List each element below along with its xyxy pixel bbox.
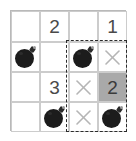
x-mark-icon (75, 79, 92, 96)
grid-cell-r4c2[interactable] (40, 102, 69, 132)
minesweeper-puzzle: 2 1 3 (0, 0, 136, 141)
grid-cell-r2c4[interactable] (98, 42, 127, 72)
grid-cell-r4c1[interactable] (11, 102, 40, 132)
cell-number: 2 (107, 78, 118, 97)
grid-cell-r1c1[interactable] (11, 11, 40, 42)
grid-cell-r3c2[interactable]: 3 (40, 72, 69, 102)
grid-cell-r4c3[interactable] (69, 102, 98, 132)
puzzle-grid: 2 1 3 (10, 10, 126, 131)
bomb-icon (73, 47, 94, 68)
x-mark-icon (75, 109, 92, 126)
grid-cell-r2c3[interactable] (69, 42, 98, 72)
cell-number: 2 (49, 17, 60, 36)
grid-cell-r3c4-selected[interactable]: 2 (98, 72, 127, 102)
grid-cell-r2c1[interactable] (11, 42, 40, 72)
grid-cell-r1c3[interactable] (69, 11, 98, 42)
bomb-icon (102, 107, 123, 128)
cell-number: 1 (107, 17, 118, 36)
x-mark-icon (104, 49, 121, 66)
grid-cell-r2c2[interactable] (40, 42, 69, 72)
grid-cell-r3c3[interactable] (69, 72, 98, 102)
grid-cell-r1c2[interactable]: 2 (40, 11, 69, 42)
cell-number: 3 (49, 78, 60, 97)
bomb-icon (15, 47, 36, 68)
grid-cell-r3c1[interactable] (11, 72, 40, 102)
grid-cell-r4c4[interactable] (98, 102, 127, 132)
bomb-icon (44, 107, 65, 128)
grid-cell-r1c4[interactable]: 1 (98, 11, 127, 42)
